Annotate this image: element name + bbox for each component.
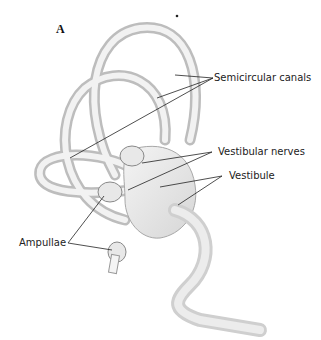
label-semicircular-canals: Semicircular canals: [214, 72, 311, 83]
label-ampullae: Ampullae: [19, 237, 66, 248]
panel-letter: A: [56, 22, 65, 37]
label-vestibule: Vestibule: [229, 170, 275, 181]
ampulla-shape: [120, 146, 144, 166]
label-vestibular-nerves: Vestibular nerves: [218, 146, 305, 157]
inner-ear-diagram: A Semicircular canals Vestibular nerves …: [0, 0, 321, 340]
